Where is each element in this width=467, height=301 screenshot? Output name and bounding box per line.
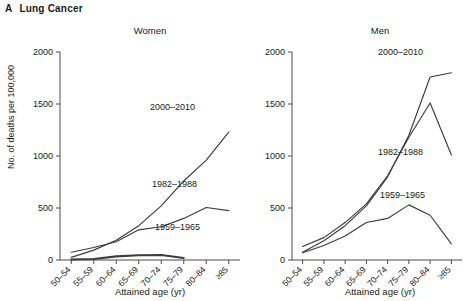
x-tick-label: 55–59 [301, 264, 325, 288]
y-tick-label: 500 [38, 203, 53, 213]
x-tick-label: 70–74 [139, 264, 163, 288]
series-line-2000-2010 [303, 73, 452, 252]
series-annotation-1982-1988: 1982–1988 [152, 179, 197, 189]
panel-men: 050010001500200050–5455–5960–6465–6970–7… [265, 47, 462, 288]
x-tick-label: 80–84 [408, 264, 432, 288]
x-tick-label: 50–54 [280, 264, 304, 288]
x-tick-label: 75–79 [386, 264, 410, 288]
x-tick-label: 50–54 [49, 264, 73, 288]
panel-women: 050010001500200050–5455–5960–6465–6970–7… [33, 47, 240, 288]
series-line-1959-1965 [71, 255, 184, 259]
plot-area: 050010001500200050–5455–5960–6465–6970–7… [0, 0, 467, 301]
axis-men [292, 52, 462, 260]
series-annotation-1959-1965: 1959–1965 [380, 190, 425, 200]
series-line-1959-1965 [303, 205, 452, 253]
figure-lung-cancer: ALung Cancer No. of deaths per 100,000 W… [0, 0, 467, 301]
series-annotation-2000-2010: 2000–2010 [150, 102, 195, 112]
x-tick-label: 65–69 [344, 264, 368, 288]
x-tick-label: 65–69 [116, 264, 140, 288]
y-tick-label: 0 [280, 255, 285, 265]
series-line-2000-2010 [71, 132, 229, 257]
y-tick-label: 1500 [33, 99, 53, 109]
series-line-1982-1988 [71, 207, 229, 252]
y-tick-label: 1000 [33, 151, 53, 161]
series-annotation-1982-1988: 1982–1988 [378, 147, 423, 157]
x-tick-label: 80–84 [184, 264, 208, 288]
x-tick-label: ≥85 [213, 264, 230, 281]
y-tick-label: 2000 [33, 47, 53, 57]
x-tick-label: 70–74 [365, 264, 389, 288]
y-tick-label: 500 [270, 203, 285, 213]
series-annotation-2000-2010: 2000–2010 [378, 47, 423, 57]
series-line-1982-1988 [303, 103, 452, 247]
x-tick-label: ≥85 [436, 264, 453, 281]
y-tick-label: 1500 [265, 99, 285, 109]
y-tick-label: 0 [48, 255, 53, 265]
y-tick-label: 2000 [265, 47, 285, 57]
x-tick-label: 60–64 [94, 264, 118, 288]
x-tick-label: 55–59 [71, 264, 95, 288]
x-tick-label: 60–64 [323, 264, 347, 288]
y-tick-label: 1000 [265, 151, 285, 161]
x-tick-label: 75–79 [161, 264, 185, 288]
series-annotation-1959-1965: 1959–1965 [155, 222, 200, 232]
